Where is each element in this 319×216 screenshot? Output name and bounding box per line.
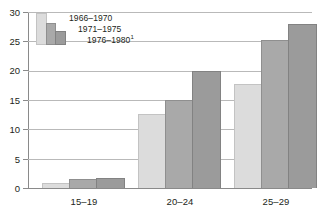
bar-20-24-1966-1970 <box>138 114 166 188</box>
y-axis-label-15: 15 <box>0 95 20 106</box>
y-axis-label-20: 20 <box>0 65 20 76</box>
legend-label-1971-1975: 1971–1975 <box>78 24 121 34</box>
bar-15-19-1971-1975 <box>69 179 97 188</box>
y-axis-label-25: 25 <box>0 36 20 47</box>
legend-footnote-marker: 1 <box>130 34 133 40</box>
legend-label-1966-1970: 1966–1970 <box>69 13 112 23</box>
legend: 1966–1970 1971–1975 1976–19801 <box>36 13 166 55</box>
y-axis-label-10: 10 <box>0 124 20 135</box>
x-axis-label-25-29: 25–29 <box>248 196 304 207</box>
y-axis-label-5: 5 <box>0 154 20 165</box>
legend-swatch-1976-1980 <box>55 31 66 45</box>
bar-20-24-1971-1975 <box>165 100 193 188</box>
y-axis-label-0: 0 <box>0 183 20 194</box>
legend-swatches <box>36 13 66 45</box>
bar-20-24-1976-1980 <box>192 71 221 188</box>
y-axis-label-30: 30 <box>0 7 20 18</box>
bar-15-19-1966-1970 <box>42 183 70 188</box>
bar-25-29-1971-1975 <box>261 40 289 188</box>
x-axis-label-20-24: 20–24 <box>152 196 208 207</box>
bar-25-29-1976-1980 <box>288 24 317 188</box>
bar-chart: 30 25 20 15 10 5 0 15–19 20–24 <box>0 0 319 216</box>
x-axis-label-15-19: 15–19 <box>56 196 112 207</box>
legend-label-1976-1980-text: 1976–1980 <box>87 35 130 45</box>
axis-baseline <box>28 188 312 189</box>
bar-15-19-1976-1980 <box>96 178 125 188</box>
bar-25-29-1966-1970 <box>234 84 262 188</box>
legend-label-1976-1980: 1976–19801 <box>87 35 134 45</box>
